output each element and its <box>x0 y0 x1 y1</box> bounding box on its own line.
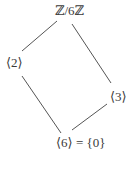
node-subgroup-3: ⟨3⟩ <box>110 90 127 104</box>
edge-top-left <box>22 21 57 51</box>
edge-top-right <box>72 24 111 83</box>
node-z6z: ℤ/6ℤ <box>55 4 84 18</box>
node-subgroup-6-trivial: ⟨6⟩ = {0} <box>56 136 105 150</box>
edge-left-bottom <box>22 76 61 133</box>
edge-right-bottom <box>72 104 107 130</box>
node-subgroup-2: ⟨2⟩ <box>6 56 23 70</box>
